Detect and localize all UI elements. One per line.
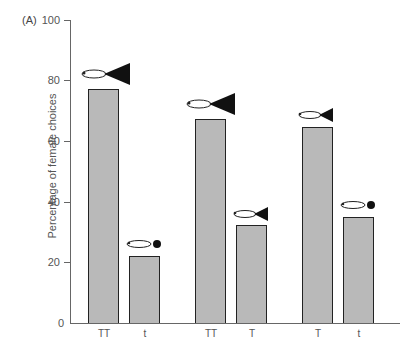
x-tick-label: t <box>130 328 160 339</box>
fish-large-tail-icon <box>185 92 237 116</box>
fish-large-tail-icon <box>80 62 132 86</box>
y-tick-label: 0 <box>24 317 64 329</box>
y-axis-label: Percentage of female choices <box>46 76 58 256</box>
y-tick-label: 40 <box>20 196 60 208</box>
bar <box>343 217 374 323</box>
x-tick-label: TT <box>196 328 226 339</box>
fish-medium-tail-icon <box>232 205 270 223</box>
y-tick <box>64 202 70 203</box>
y-tick <box>64 20 70 21</box>
fish-small-tail-icon <box>125 236 163 252</box>
y-tick-label: 60 <box>20 135 60 147</box>
x-tick-label: T <box>237 328 267 339</box>
y-tick-label: 100 <box>20 14 60 26</box>
fish-medium-tail-icon <box>297 106 335 124</box>
x-tick-label: TT <box>89 328 119 339</box>
x-axis <box>70 323 400 324</box>
x-tick-label: t <box>344 328 374 339</box>
x-tick-label: T <box>303 328 333 339</box>
y-tick <box>64 141 70 142</box>
bar <box>129 256 160 323</box>
fish-small-tail-icon <box>339 197 377 213</box>
y-tick <box>64 262 70 263</box>
bar <box>88 89 119 323</box>
y-axis <box>70 20 71 323</box>
y-tick-label: 80 <box>20 74 60 86</box>
y-tick <box>64 80 70 81</box>
bar <box>302 127 333 323</box>
y-tick-label: 20 <box>20 256 60 268</box>
bar <box>236 225 267 323</box>
bar <box>195 119 226 323</box>
